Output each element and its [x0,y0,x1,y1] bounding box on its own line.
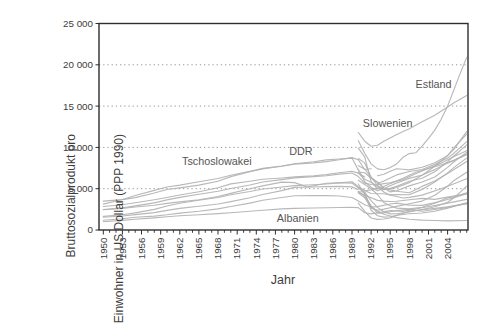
series-line-05 [103,154,466,210]
y-axis-title-line-2: Einwohner in US Dollar (PPP 1990) [112,134,126,323]
x-tick-label: 1989 [346,238,357,260]
x-tick-label: 1968 [212,237,223,259]
annotation-ddr: DDR [289,145,313,157]
x-tick-label: 1977 [270,238,281,260]
x-tick-label: 1950 [98,237,109,259]
annotation-albanien: Albanien [277,212,319,224]
x-tick-label: 1986 [327,237,338,259]
x-tick-label: 1962 [174,238,185,260]
y-tick-label: 25 000 [63,18,94,29]
annotation-tschoslowakei: Tschoslowakei [182,155,252,167]
x-tick-label: 1956 [136,237,147,259]
x-tick-label: 1992 [365,238,376,260]
x-axis-title: Jahr [271,273,295,287]
x-tick-label: 1965 [193,237,204,259]
x-tick-label: 1998 [404,237,415,259]
annotation-estland: Estland [416,78,452,90]
annotation-slowenien: Slowenien [363,117,413,129]
x-tick-label: 1959 [155,238,166,260]
x-tick-label: 1995 [384,237,395,259]
y-tick-label: 15 000 [63,101,94,112]
x-tick-label: 1980 [289,237,300,259]
x-tick-label: 2004 [442,237,453,259]
x-tick-label: 1974 [251,237,262,259]
x-tick-label: 2001 [423,238,434,260]
y-axis-title-line-1: Bruttosozialprodukt pro [64,134,78,257]
y-tick-label: 0 [88,224,94,235]
x-tick-label: 1983 [308,237,319,259]
y-tick-label: 20 000 [63,59,94,70]
x-tick-label: 1971 [231,238,242,260]
